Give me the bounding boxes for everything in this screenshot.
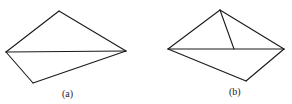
- figure-a: (a): [6, 11, 126, 100]
- figure-a-diagonal: [6, 51, 126, 52]
- figure-b-edge-top-right: [220, 10, 284, 49]
- figure-b-label: (b): [229, 86, 241, 98]
- figure-a-edge-top-right: [59, 11, 126, 51]
- figure-b-inner-segment: [220, 10, 234, 49]
- figure-b-edge-left-top: [168, 10, 220, 49]
- figure-b: (b): [168, 10, 284, 98]
- figure-a-edge-left-top: [6, 11, 59, 52]
- figure-a-label: (a): [62, 88, 73, 100]
- diagram-canvas: (a) (b): [0, 0, 292, 104]
- figure-a-edge-right-bottom: [33, 51, 126, 83]
- figure-b-edge-bottom-left: [168, 49, 246, 81]
- figure-b-edge-right-bottom: [246, 49, 284, 81]
- figure-a-edge-bottom-left: [6, 52, 33, 83]
